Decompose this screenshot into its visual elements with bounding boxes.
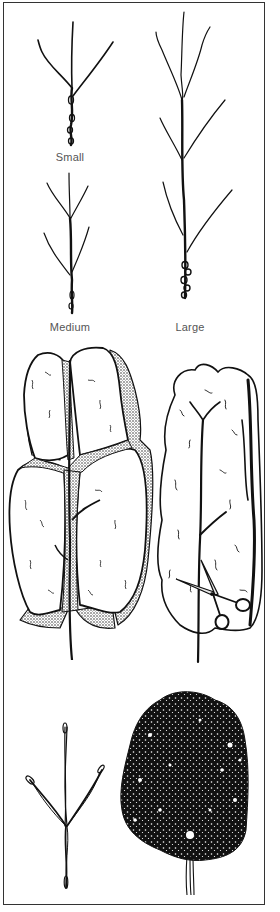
illustration-canvas	[0, 0, 280, 912]
mature-dense-tree	[121, 692, 248, 895]
trimmed-tree-with-scissors	[158, 364, 262, 662]
shaped-pruned-tree	[9, 348, 152, 660]
size-label-small: Small	[30, 151, 110, 163]
young-sapling	[25, 723, 106, 888]
large-tree	[156, 12, 232, 298]
size-label-large: Large	[150, 321, 230, 333]
small-tree	[38, 22, 113, 145]
medium-tree	[44, 173, 89, 313]
size-label-medium: Medium	[30, 321, 110, 333]
